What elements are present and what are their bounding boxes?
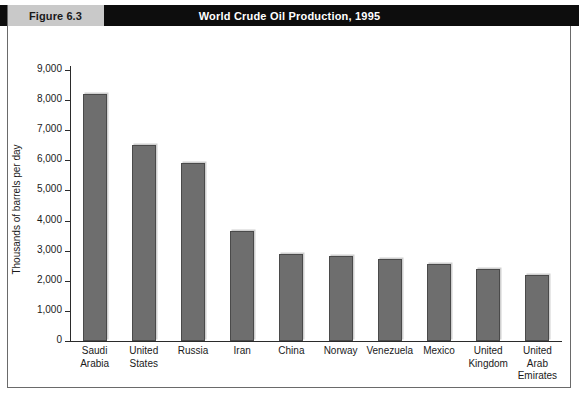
bar	[279, 254, 303, 341]
y-tick-label: 8,000	[18, 93, 62, 104]
x-axis-label: UnitedKingdom	[464, 345, 513, 370]
x-axis-label-line: Iran	[218, 345, 267, 358]
x-axis-label-line: Saudi	[70, 345, 119, 358]
bar	[181, 163, 205, 341]
y-tick-label: 9,000	[18, 63, 62, 74]
x-axis-label-line: Norway	[316, 345, 365, 358]
y-tick-label: 5,000	[18, 183, 62, 194]
bar	[476, 269, 500, 341]
bar-chart: Thousands of barrels per day 9,0008,0007…	[0, 0, 579, 402]
x-axis-label: Russia	[168, 345, 217, 358]
x-axis-label: China	[267, 345, 316, 358]
bar	[230, 231, 254, 341]
x-axis-label: Mexico	[414, 345, 463, 358]
y-tick-label: 3,000	[18, 244, 62, 255]
y-tick-label: 4,000	[18, 214, 62, 225]
x-axis-label-line: Arab	[513, 358, 562, 371]
x-axis-label-line: Arabia	[70, 358, 119, 371]
figure-container: World Crude Oil Production, 1995 Figure …	[0, 0, 579, 402]
bar	[525, 275, 549, 341]
x-axis-label: Iran	[218, 345, 267, 358]
x-axis-label-line: United	[513, 345, 562, 358]
bar	[132, 145, 156, 341]
x-axis-label-line: Venezuela	[365, 345, 414, 358]
x-axis-label-line: Russia	[168, 345, 217, 358]
x-axis-label: Venezuela	[365, 345, 414, 358]
x-axis-label-line: Kingdom	[464, 358, 513, 371]
y-tick-label: 7,000	[18, 123, 62, 134]
x-axis-label-line: United	[464, 345, 513, 358]
y-tick-label: 1,000	[18, 304, 62, 315]
x-axis-label-line: Mexico	[414, 345, 463, 358]
x-axis-label-line: Emirates	[513, 370, 562, 383]
x-axis-label: Norway	[316, 345, 365, 358]
x-axis-label-line: China	[267, 345, 316, 358]
x-axis-label: SaudiArabia	[70, 345, 119, 370]
y-tick-label: 6,000	[18, 153, 62, 164]
y-tick-label: 2,000	[18, 274, 62, 285]
y-tick-label: 0	[18, 334, 62, 345]
x-axis-label: UnitedArabEmirates	[513, 345, 562, 383]
bar	[378, 259, 402, 341]
x-axis-label: UnitedStates	[119, 345, 168, 370]
bar	[83, 94, 107, 341]
x-axis-label-line: States	[119, 358, 168, 371]
bar	[329, 256, 353, 341]
y-axis-title: Thousands of barrels per day	[11, 120, 22, 300]
x-axis-label-line: United	[119, 345, 168, 358]
x-axis-line	[70, 341, 562, 342]
y-axis-line	[70, 66, 71, 342]
bar	[427, 264, 451, 341]
